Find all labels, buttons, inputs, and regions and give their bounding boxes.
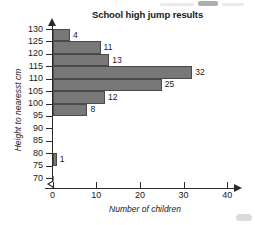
bar-value-label: 4 <box>73 31 78 40</box>
y-axis-tick <box>46 128 52 129</box>
y-axis-tick <box>46 141 52 142</box>
y-axis-tick-label: 85 <box>14 136 43 145</box>
bar <box>53 104 88 116</box>
y-axis-tick <box>46 178 52 179</box>
y-axis-tick-label: 105 <box>14 87 43 96</box>
bar-value-label: 32 <box>195 68 204 77</box>
x-axis-tick <box>53 182 54 188</box>
bar-value-label: 12 <box>108 93 117 102</box>
x-axis-tick <box>140 182 141 188</box>
bar <box>53 41 101 53</box>
y-axis-tick <box>46 66 52 67</box>
y-axis-tick-label: 95 <box>14 111 43 120</box>
y-axis-tick <box>46 79 52 80</box>
y-axis-tick-label: 110 <box>14 74 43 83</box>
y-axis-arrow-icon <box>48 18 56 26</box>
scan-artifact <box>198 1 218 6</box>
y-axis-tick <box>46 153 52 154</box>
x-axis-tick <box>96 182 97 188</box>
y-axis-tick <box>46 91 52 92</box>
x-axis-tick-label: 40 <box>216 191 238 200</box>
x-axis-tick <box>184 182 185 188</box>
bar-value-label: 8 <box>90 105 95 114</box>
bar <box>53 79 162 91</box>
scan-artifact <box>160 3 194 6</box>
x-axis-label: Number of children <box>80 204 210 214</box>
bar-value-label: 25 <box>165 80 174 89</box>
bar <box>53 54 110 66</box>
y-axis-tick-label: 125 <box>14 37 43 46</box>
y-axis-tick-label: 115 <box>14 62 43 71</box>
x-axis-tick-label: 20 <box>129 191 151 200</box>
y-axis-tick <box>46 29 52 30</box>
scan-artifact <box>236 214 252 221</box>
x-axis-tick-label: 10 <box>85 191 107 200</box>
x-axis-tick <box>227 182 228 188</box>
scan-artifact <box>222 3 244 6</box>
x-axis-tick-label: 0 <box>42 191 64 200</box>
bar <box>53 29 70 41</box>
chart-container: School high jump results Height to neare… <box>0 0 255 225</box>
y-axis-tick <box>46 166 52 167</box>
y-axis-tick-label: 130 <box>14 25 43 34</box>
y-axis-tick-label: 70 <box>14 174 43 183</box>
y-axis-tick <box>46 104 52 105</box>
bar <box>53 66 193 78</box>
y-axis-tick <box>46 41 52 42</box>
y-axis-tick-label: 80 <box>14 149 43 158</box>
y-axis-tick <box>46 116 52 117</box>
bar-value-label: 13 <box>112 56 121 65</box>
bar-value-label: 1 <box>60 155 65 164</box>
bar-value-label: 11 <box>104 43 113 52</box>
y-axis-tick <box>46 54 52 55</box>
bar <box>53 91 105 103</box>
y-axis-tick-label: 100 <box>14 99 43 108</box>
y-axis-tick-label: 90 <box>14 124 43 133</box>
y-axis-tick-label: 120 <box>14 49 43 58</box>
chart-title: School high jump results <box>92 9 232 20</box>
x-axis-tick-label: 30 <box>173 191 195 200</box>
y-axis-tick-label: 75 <box>14 161 43 170</box>
bar <box>53 153 57 165</box>
